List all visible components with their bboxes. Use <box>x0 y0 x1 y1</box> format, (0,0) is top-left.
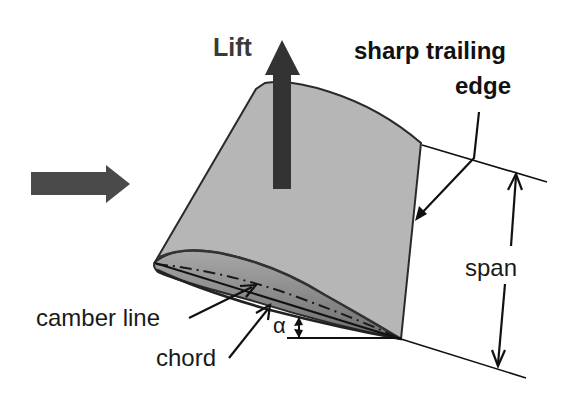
span-label: span <box>465 254 517 281</box>
angle-arc-arrows <box>294 317 303 338</box>
wing-diagram: Lift sharp trailing edge span camber lin… <box>0 0 574 402</box>
camber-line-label: camber line <box>36 304 160 331</box>
chord-pointer <box>229 305 270 358</box>
angle-of-attack-label: α <box>273 313 286 338</box>
chord-label: chord <box>156 344 216 371</box>
flow-arrow-icon <box>31 165 130 203</box>
span-extension-top <box>422 145 547 182</box>
lift-label: Lift <box>213 33 253 61</box>
trailing-edge-label-line1: sharp trailing <box>354 37 506 64</box>
span-extension-bottom <box>401 339 526 378</box>
trailing-edge-leader <box>415 112 479 221</box>
trailing-edge-label-line2: edge <box>455 72 511 99</box>
